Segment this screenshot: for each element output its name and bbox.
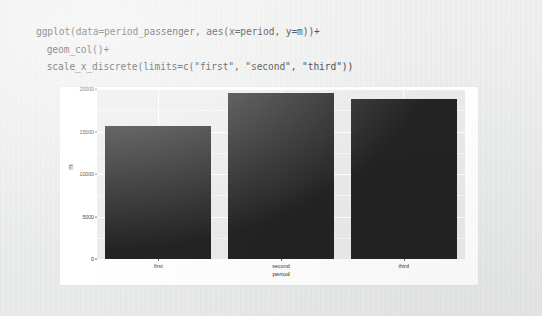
screenshot-page: ggplot(data=period_passenger, aes(x=peri…: [0, 0, 542, 316]
code-line-2: geom_col()+: [36, 41, 456, 59]
y-tick-label: 20000: [80, 86, 95, 92]
x-axis-title: period: [97, 270, 465, 277]
code-line-1: ggplot(data=period_passenger, aes(x=peri…: [36, 23, 456, 41]
plot-panel: [97, 89, 465, 259]
plot-card: m 05000100001500020000 firstsecondthird …: [60, 87, 478, 285]
bar-third: [351, 99, 457, 259]
x-tick-label-third: third: [398, 263, 409, 269]
bar-first: [105, 126, 211, 259]
x-tick-mark: [281, 259, 282, 261]
y-axis-ticks: 05000100001500020000: [68, 87, 97, 259]
bar-second: [228, 93, 334, 259]
x-tick-label-first: first: [154, 263, 163, 269]
code-block: ggplot(data=period_passenger, aes(x=peri…: [36, 23, 456, 76]
y-tick-label: 15000: [80, 129, 95, 135]
x-tick-mark: [158, 259, 159, 261]
code-line-3: scale_x_discrete(limits=c("first", "seco…: [36, 58, 456, 76]
y-tick-label: 0: [91, 256, 94, 262]
x-tick-mark: [404, 259, 405, 261]
y-tick-label: 10000: [80, 171, 95, 177]
y-tick-label: 5000: [82, 214, 94, 220]
x-tick-label-second: second: [272, 263, 289, 269]
